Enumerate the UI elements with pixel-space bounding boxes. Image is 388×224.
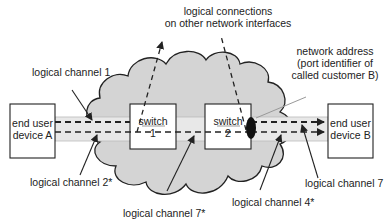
logical-channel-1-label: logical channel 1	[32, 66, 110, 78]
device-a-label: end user device A	[10, 117, 55, 141]
logical-connections-line2: on other network interfaces	[128, 17, 328, 29]
device-b-line1: end user	[328, 117, 373, 129]
logical-channel-2-label: logical channel 2*	[30, 176, 112, 188]
device-b-label: end user device B	[328, 117, 373, 141]
logical-connections-label: logical connections on other network int…	[128, 5, 328, 29]
switch-2-line1: switch	[205, 115, 251, 127]
switch-1-label: switch 1	[130, 115, 176, 139]
logical-channel-7-label: logical channel 7	[305, 177, 383, 189]
network-diagram	[0, 0, 388, 224]
network-address-label: network address (port identifier of call…	[280, 45, 388, 81]
network-address-line1: network address	[280, 45, 388, 57]
logical-connections-line1: logical connections	[128, 5, 328, 17]
switch-1-line1: switch	[130, 115, 176, 127]
switch-2-line2: 2	[205, 127, 251, 139]
switch-2-label: switch 2	[205, 115, 251, 139]
device-b-line2: device B	[328, 129, 373, 141]
switch-1-line2: 1	[130, 127, 176, 139]
device-a-line2: device A	[10, 129, 55, 141]
network-address-line2: (port identifier of	[280, 57, 388, 69]
logical-channel-4-label: logical channel 4*	[232, 196, 314, 208]
device-a-line1: end user	[10, 117, 55, 129]
network-address-line3: called customer B)	[280, 69, 388, 81]
logical-channel-7-star-label: logical channel 7*	[123, 207, 205, 219]
